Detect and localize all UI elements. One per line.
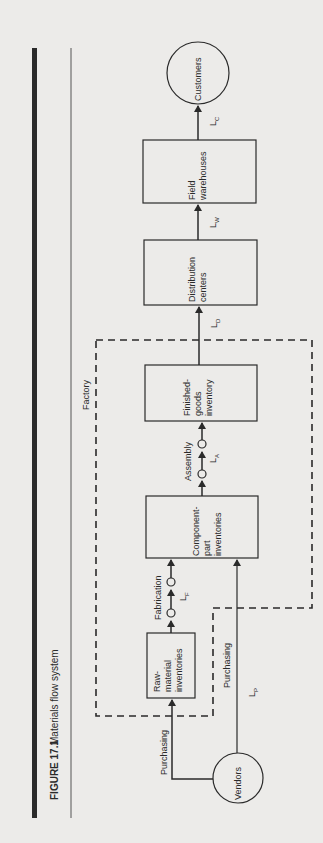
purchasing-component-label: Purchasing xyxy=(222,643,232,688)
purchasing-raw-label: Purchasing xyxy=(159,730,169,775)
raw-material-label: Raw- material inventories xyxy=(152,648,184,692)
ld-label: LD xyxy=(209,318,221,328)
lw-label: LW xyxy=(208,217,220,228)
la-label: LA xyxy=(208,454,220,463)
assembly-chain xyxy=(198,423,206,496)
factory-label: Factory xyxy=(81,379,91,410)
lp-label: LP xyxy=(247,688,259,697)
vendors-label: Vendors xyxy=(233,766,243,800)
distribution-centers-label: Distribution centers xyxy=(187,254,208,302)
figure-number: FIGURE 17.1 xyxy=(49,740,60,800)
fabrication-chain xyxy=(167,560,175,633)
purchasing-raw-arrow xyxy=(172,700,213,779)
fabrication-label: Fabrication xyxy=(153,575,163,620)
materials-flow-diagram: FIGURE 17.1 Materials flow system Factor… xyxy=(0,0,323,843)
customers-label: Customers xyxy=(193,57,203,101)
figure-title: Materials flow system xyxy=(49,649,60,745)
finished-goods-label: Finished- goods inventory xyxy=(182,376,214,416)
header-thick-rule xyxy=(32,48,37,818)
component-part-label: Component- part inventories xyxy=(191,504,223,556)
field-warehouses-label: Field warehouses xyxy=(187,151,208,201)
lf-label: LF xyxy=(178,592,190,601)
lc-label: LC xyxy=(208,116,220,126)
assembly-label: Assembly xyxy=(183,441,193,481)
